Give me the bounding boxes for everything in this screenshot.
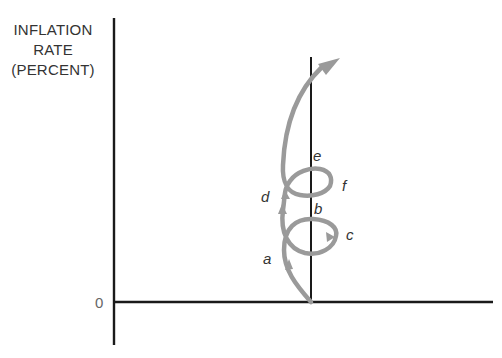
- arrowhead-icon: [318, 58, 340, 75]
- point-label-d: d: [261, 188, 270, 205]
- point-label-c: c: [346, 226, 354, 243]
- point-label-b: b: [314, 200, 322, 217]
- point-label-e: e: [313, 147, 321, 164]
- origin-label: 0: [95, 294, 103, 311]
- spiral-diagram: 0 a b c d e f: [0, 0, 502, 358]
- point-label-a: a: [263, 250, 271, 267]
- point-label-f: f: [342, 177, 348, 194]
